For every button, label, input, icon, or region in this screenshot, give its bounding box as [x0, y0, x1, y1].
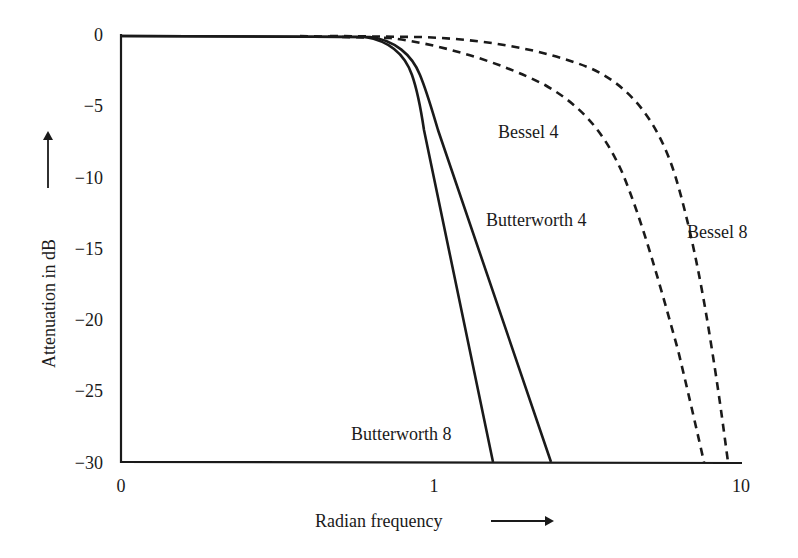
label-bessel-8: Bessel 8 — [687, 222, 748, 242]
y-tick-labels: 0 −5 −10 −15 −20 −25 −30 — [75, 25, 103, 473]
x-axis-arrow-icon — [491, 516, 554, 526]
curve-butterworth-4 — [121, 36, 551, 462]
x-axis-line — [120, 462, 742, 463]
x-axis-label: Radian frequency — [315, 511, 442, 531]
label-butterworth-4: Butterworth 4 — [486, 210, 587, 230]
label-butterworth-8: Butterworth 8 — [351, 424, 452, 444]
y-tick-m15: −15 — [75, 239, 103, 259]
curve-butterworth-8 — [121, 36, 493, 462]
filter-response-chart: 0 −5 −10 −15 −20 −25 −30 0 1 10 Radian f… — [0, 0, 798, 558]
curves — [121, 36, 728, 462]
y-axis-arrow-icon — [43, 131, 53, 188]
y-tick-0: 0 — [94, 25, 103, 45]
y-tick-m30: −30 — [75, 453, 103, 473]
label-bessel-4: Bessel 4 — [498, 122, 559, 142]
y-tick-m25: −25 — [75, 381, 103, 401]
y-tick-m10: −10 — [75, 168, 103, 188]
x-tick-1: 1 — [430, 476, 439, 496]
x-tick-10: 10 — [732, 476, 750, 496]
x-tick-labels: 0 1 10 — [117, 476, 751, 496]
y-tick-m5: −5 — [84, 96, 103, 116]
curve-bessel-4 — [300, 36, 704, 462]
y-axis-label: Attenuation in dB — [39, 239, 59, 368]
y-tick-m20: −20 — [75, 310, 103, 330]
x-tick-0: 0 — [117, 476, 126, 496]
